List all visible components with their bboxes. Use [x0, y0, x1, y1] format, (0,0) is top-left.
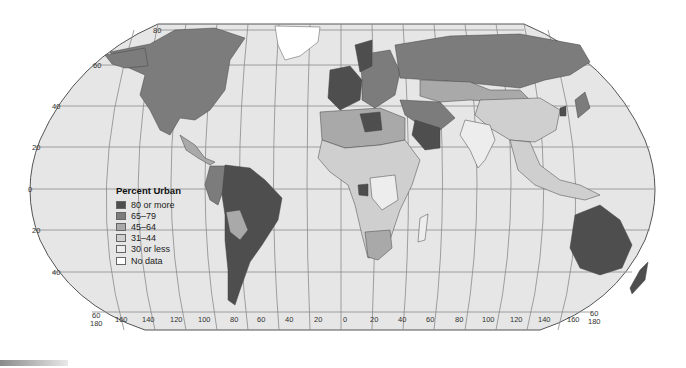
svg-text:40: 40: [52, 268, 60, 277]
region-south-korea: [560, 106, 566, 116]
svg-text:120: 120: [510, 315, 523, 324]
legend-item: 65–79: [116, 210, 181, 221]
region-new-zealand: [630, 262, 648, 294]
svg-text:20: 20: [32, 143, 40, 152]
svg-text:60: 60: [93, 61, 101, 70]
svg-text:80: 80: [455, 315, 463, 324]
legend: Percent Urban 80 or more 65–79 45–64 31–…: [116, 185, 181, 266]
svg-text:140: 140: [538, 315, 551, 324]
svg-text:40: 40: [52, 102, 60, 111]
svg-text:80: 80: [153, 26, 161, 35]
svg-text:0: 0: [343, 315, 347, 324]
svg-text:60: 60: [426, 315, 434, 324]
svg-text:100: 100: [198, 315, 211, 324]
legend-title: Percent Urban: [116, 185, 181, 196]
legend-label: 30 or less: [131, 244, 170, 254]
legend-label: 65–79: [131, 211, 156, 221]
svg-text:20: 20: [314, 315, 322, 324]
legend-swatch: [116, 212, 126, 220]
legend-swatch: [116, 201, 126, 209]
svg-text:100: 100: [482, 315, 495, 324]
legend-item: No data: [116, 255, 181, 266]
legend-item: 80 or more: [116, 199, 181, 210]
legend-label: 45–64: [131, 222, 156, 232]
legend-item: 31–44: [116, 233, 181, 244]
svg-text:120: 120: [170, 315, 183, 324]
region-gabon: [358, 184, 368, 196]
legend-item: 45–64: [116, 221, 181, 232]
legend-swatch: [116, 234, 126, 242]
legend-swatch: [116, 245, 126, 253]
svg-text:20: 20: [370, 315, 378, 324]
decorative-gradient-bar: [0, 360, 68, 366]
legend-swatch: [116, 257, 126, 265]
svg-text:140: 140: [142, 315, 155, 324]
svg-text:180: 180: [588, 317, 601, 326]
svg-text:180: 180: [90, 319, 103, 328]
legend-label: 31–44: [131, 233, 156, 243]
legend-item: 30 or less: [116, 244, 181, 255]
world-map: 80 60 40 20 0 20 40 60 180 160 140 120 1…: [0, 0, 686, 368]
legend-swatch: [116, 223, 126, 231]
svg-text:0: 0: [28, 185, 32, 194]
svg-text:160: 160: [567, 315, 580, 324]
svg-text:80: 80: [230, 315, 238, 324]
svg-text:60: 60: [257, 315, 265, 324]
svg-text:160: 160: [115, 315, 128, 324]
svg-text:20: 20: [32, 226, 40, 235]
legend-label: 80 or more: [131, 200, 175, 210]
svg-text:40: 40: [398, 315, 406, 324]
legend-label: No data: [131, 256, 163, 266]
svg-text:40: 40: [285, 315, 293, 324]
